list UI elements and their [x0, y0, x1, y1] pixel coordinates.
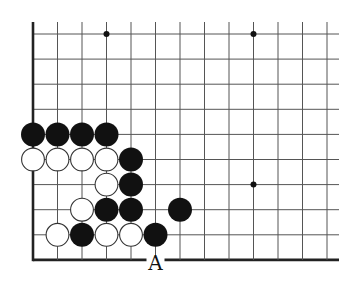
white-stone-icon — [71, 148, 94, 171]
black-stone-icon — [168, 198, 192, 222]
white-stone-icon — [95, 173, 118, 196]
white-stone-icon — [22, 148, 45, 171]
point-labels: A — [147, 251, 165, 275]
black-stone-icon — [46, 122, 70, 146]
star-point-icon — [104, 31, 110, 37]
black-stone-icon — [144, 223, 168, 247]
black-stone-icon — [119, 148, 143, 172]
black-stone-icon — [95, 198, 119, 222]
black-stone-icon — [21, 122, 45, 146]
white-stone-icon — [71, 198, 94, 221]
black-stone-icon — [70, 223, 94, 247]
white-stone-icon — [46, 223, 69, 246]
white-stone-icon — [46, 148, 69, 171]
black-stone-icon — [95, 122, 119, 146]
black-stone-icon — [70, 122, 94, 146]
star-point-icon — [251, 182, 257, 188]
go-board-diagram: A — [0, 0, 358, 282]
point-label: A — [147, 251, 163, 275]
white-stone-icon — [120, 223, 143, 246]
star-point-icon — [251, 31, 257, 37]
black-stone-icon — [119, 173, 143, 197]
white-stone-icon — [95, 148, 118, 171]
white-stone-icon — [95, 223, 118, 246]
black-stone-icon — [119, 198, 143, 222]
